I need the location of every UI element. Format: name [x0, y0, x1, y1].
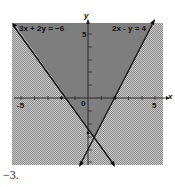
x-tick-5: 5 [152, 101, 157, 110]
x-axis-label: x [167, 92, 173, 101]
y-tick-5: 5 [82, 30, 87, 39]
line1-label: 3x + 2y = −6 [19, 24, 65, 33]
intercept-point [114, 97, 117, 100]
line2-label: 2x - y = 4 [112, 24, 147, 33]
problem-number: −3. [3, 168, 19, 183]
y-axis-label: y [83, 11, 89, 20]
x-tick-0: 0 [81, 99, 86, 108]
inequality-graph: y x -5 0 5 5 3x + 2y = −6 2x - y = 4 [0, 0, 175, 187]
intercept-point [60, 97, 63, 100]
x-tick-neg5: -5 [17, 101, 25, 110]
intercept-point [87, 132, 90, 135]
